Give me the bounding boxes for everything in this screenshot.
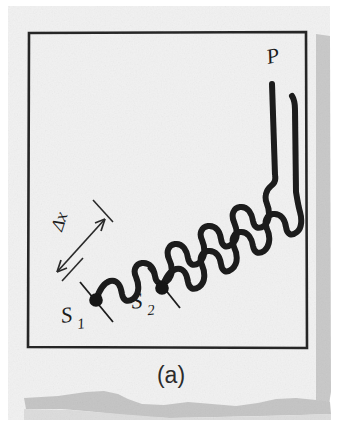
source-S2-dot — [155, 281, 169, 295]
wave-interference-figure: P S 1 S 2 Δx (a) — [0, 0, 342, 437]
source-S1-dot — [89, 293, 103, 307]
figure-caption: (a) — [157, 362, 185, 388]
figure-container: P S 1 S 2 Δx (a) — [0, 0, 342, 437]
